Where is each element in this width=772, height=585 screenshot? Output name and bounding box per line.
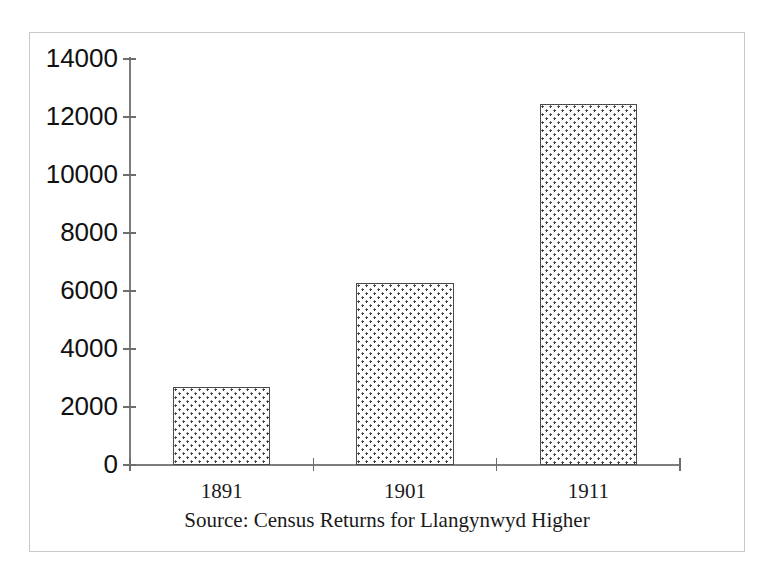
y-axis-tick-label: 8000 bbox=[18, 219, 118, 245]
y-axis-tick-label: 6000 bbox=[18, 277, 118, 303]
x-axis-tick bbox=[313, 458, 315, 471]
bar bbox=[356, 283, 453, 465]
x-axis-tick-label: 1901 bbox=[313, 479, 496, 504]
y-axis-tick-label-wrap: 0 bbox=[10, 465, 118, 466]
y-axis-tick bbox=[123, 232, 136, 234]
bar bbox=[173, 387, 270, 465]
y-axis-tick-label-wrap: 2000 bbox=[10, 407, 118, 408]
y-axis-tick-label-wrap: 6000 bbox=[10, 291, 118, 292]
figure-root: 02000400060008000100001200014000 1891190… bbox=[0, 0, 772, 585]
x-axis-tick bbox=[129, 458, 131, 471]
y-axis-tick-label-wrap: 4000 bbox=[10, 349, 118, 350]
y-axis-tick-label-wrap: 12000 bbox=[10, 117, 118, 118]
y-axis-tick bbox=[123, 348, 136, 350]
y-axis-tick-label: 2000 bbox=[18, 393, 118, 419]
y-axis-tick-label-wrap: 14000 bbox=[10, 59, 118, 60]
y-axis-tick-label-wrap: 8000 bbox=[10, 233, 118, 234]
y-axis-tick-label-wrap: 10000 bbox=[10, 175, 118, 176]
x-axis-tick-label: 1891 bbox=[130, 479, 313, 504]
y-axis-tick-label: 10000 bbox=[18, 161, 118, 187]
x-axis-tick-label: 1911 bbox=[497, 479, 680, 504]
y-axis-tick-label: 14000 bbox=[18, 45, 118, 71]
y-axis-tick bbox=[123, 290, 136, 292]
chart-caption: Source: Census Returns for Llangynwyd Hi… bbox=[29, 508, 745, 533]
y-axis-tick bbox=[123, 174, 136, 176]
x-axis-tick bbox=[679, 458, 681, 471]
y-axis-tick-label: 12000 bbox=[18, 103, 118, 129]
y-axis-tick bbox=[123, 58, 136, 60]
bar bbox=[540, 104, 637, 465]
y-axis-tick bbox=[123, 116, 136, 118]
y-axis-tick bbox=[123, 406, 136, 408]
y-axis-tick-label: 4000 bbox=[18, 335, 118, 361]
x-axis-tick bbox=[496, 458, 498, 471]
y-axis-line bbox=[129, 57, 131, 466]
y-axis-tick-label: 0 bbox=[18, 451, 118, 477]
